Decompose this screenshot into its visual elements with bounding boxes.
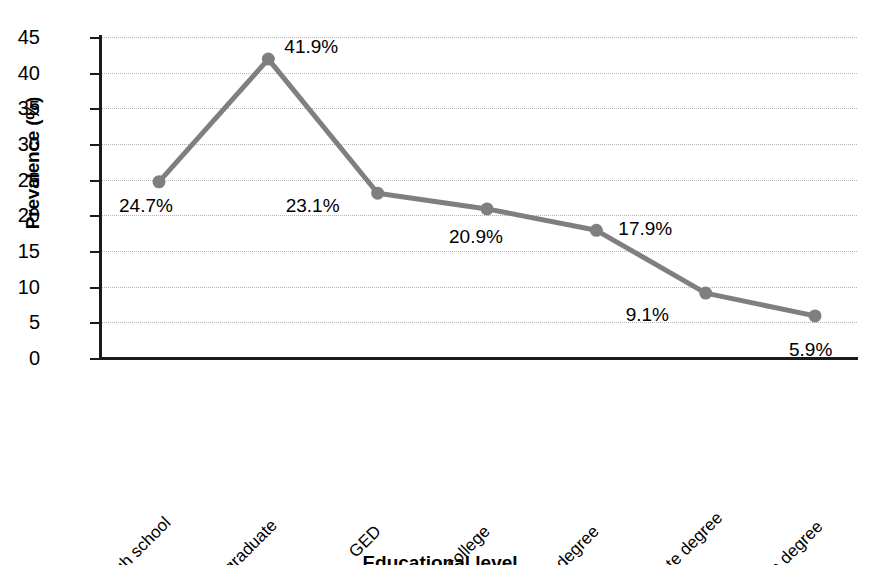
y-tick-label: 25	[4, 170, 40, 190]
x-axis-line	[99, 357, 858, 360]
gridline	[101, 251, 857, 252]
y-tick-label: 0	[4, 348, 40, 368]
plot-area	[101, 37, 857, 358]
data-point-label: 24.7%	[119, 196, 173, 215]
data-point-label: 20.9%	[449, 227, 503, 246]
gridline	[101, 322, 857, 323]
y-tick-label: 30	[4, 134, 40, 154]
data-point-label: 17.9%	[618, 219, 672, 238]
data-point-label: 5.9%	[789, 340, 832, 359]
gridline	[101, 287, 857, 288]
y-tick-label: 35	[4, 98, 40, 118]
y-tick-label: 10	[4, 277, 40, 297]
y-tick-label: 40	[4, 63, 40, 83]
gridline	[101, 73, 857, 74]
y-axis-line	[99, 35, 102, 360]
y-tick-label: 20	[4, 205, 40, 225]
gridline	[101, 37, 857, 38]
gridline	[101, 180, 857, 181]
gridline	[101, 215, 857, 216]
x-axis-title: Educational level	[0, 552, 880, 565]
y-axis-ticks: 051015202530354045	[0, 0, 90, 565]
data-point-label: 9.1%	[626, 305, 669, 324]
chart-figure: Prevalence (%) 051015202530354045 24.7%4…	[0, 0, 880, 565]
y-tick-label: 15	[4, 241, 40, 261]
gridline	[101, 144, 857, 145]
y-tick-label: 5	[4, 312, 40, 332]
data-point-label: 23.1%	[286, 196, 340, 215]
y-tick-label: 45	[4, 27, 40, 47]
gridline	[101, 108, 857, 109]
data-point-label: 41.9%	[284, 37, 338, 56]
